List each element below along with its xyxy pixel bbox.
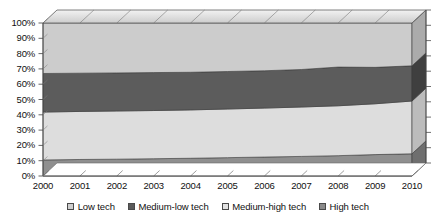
x-axis-tick-label: 2006: [247, 180, 281, 191]
x-axis-tick-label: 2004: [174, 180, 208, 191]
legend-swatch-icon: [128, 203, 135, 210]
legend-swatch-icon: [67, 203, 74, 210]
legend-swatch-icon: [319, 203, 326, 210]
legend-item-low-tech[interactable]: Low tech: [67, 201, 115, 212]
legend-item-medium-high-tech[interactable]: Medium-high tech: [222, 201, 306, 212]
legend-label: Low tech: [78, 201, 115, 212]
legend-label: Medium-high tech: [232, 201, 306, 212]
x-axis-tick-label: 2002: [100, 180, 134, 191]
x-axis-tick-label: 2001: [63, 180, 97, 191]
area-band-low-tech: [43, 23, 412, 73]
x-axis-tick-label: 2010: [395, 180, 429, 191]
legend-item-medium-low-tech[interactable]: Medium-low tech: [128, 201, 209, 212]
plot-floor: [43, 163, 426, 176]
stacked-area-chart: 100%90%80%70%60%50%40%30%20%10%0% 200020…: [0, 0, 436, 219]
x-axis-tick-label: 2003: [137, 180, 171, 191]
x-axis-tick-label: 2000: [26, 180, 60, 191]
chart-legend: Low techMedium-low techMedium-high techH…: [0, 198, 436, 214]
legend-swatch-icon: [222, 203, 229, 210]
x-axis-tick-label: 2005: [211, 180, 245, 191]
x-axis-tick-label: 2009: [358, 180, 392, 191]
x-axis-tick-label: 2007: [284, 180, 318, 191]
legend-item-high-tech[interactable]: High tech: [319, 201, 369, 212]
legend-label: Medium-low tech: [138, 201, 208, 212]
legend-label: High tech: [330, 201, 369, 212]
x-axis-tick-label: 2008: [321, 180, 355, 191]
